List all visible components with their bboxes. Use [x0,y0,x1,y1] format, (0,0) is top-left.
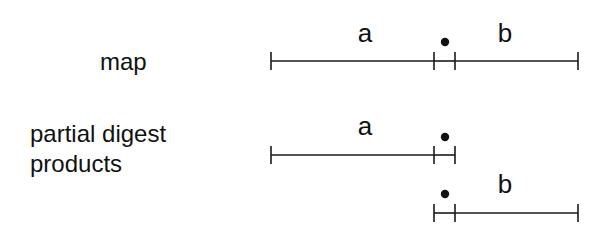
fragment-label-a: a [358,111,373,141]
marker-dot-icon [441,38,449,46]
fragment-label-b: b [498,169,512,199]
restriction-map-diagram: abab [0,0,607,233]
row-partial-product-a: a [271,111,455,164]
fragment-label-b: b [498,18,512,48]
row-partial-product-b: b [434,169,578,222]
row-map: ab [271,18,578,70]
marker-dot-icon [441,133,449,141]
fragment-label-a: a [358,18,373,48]
marker-dot-icon [441,190,449,198]
